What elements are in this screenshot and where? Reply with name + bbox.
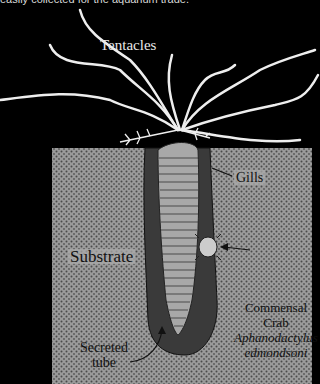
- label-species-genus: Aphanodactylus: [224, 330, 320, 345]
- label-secreted: Secreted: [76, 340, 132, 355]
- crab-illustration: [195, 234, 221, 260]
- label-commensal-crab: Commensal Crab Aphanodactylus edmondsoni: [224, 300, 320, 360]
- label-species-epithet: edmondsoni: [224, 345, 320, 360]
- label-secreted-tube: Secreted tube: [76, 340, 132, 370]
- label-substrate: Substrate: [68, 249, 135, 264]
- label-commensal: Commensal: [224, 300, 320, 315]
- label-tube: tube: [76, 355, 132, 370]
- tentacles: [0, 10, 318, 141]
- label-tentacles: Tentacles: [100, 38, 156, 53]
- label-gills: Gills: [234, 170, 265, 185]
- label-crab: Crab: [224, 315, 320, 330]
- gills: [120, 128, 210, 145]
